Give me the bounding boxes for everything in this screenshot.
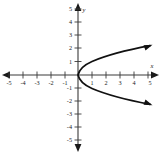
x-tick-label-pos3: 3 — [118, 79, 121, 86]
x-tick-label-pos5: 5 — [148, 79, 151, 86]
y-axis-down-arrow-icon — [75, 144, 82, 152]
y-tick-label-pos3: 3 — [69, 31, 72, 38]
y-tick-label-neg3: -3 — [67, 110, 72, 117]
x-axis-group — [2, 72, 159, 79]
x-tick-label-pos4: 4 — [132, 79, 135, 86]
y-tick-label-neg4: -4 — [67, 123, 72, 130]
x-tick-label-neg5: -5 — [6, 79, 11, 86]
y-tick-labels: 5 4 3 2 1 -1 -2 -3 -4 -5 — [67, 5, 72, 143]
y-tick-label-pos5: 5 — [69, 5, 72, 12]
y-axis-label: y — [82, 6, 86, 13]
x-axis-right-arrow-icon — [151, 72, 159, 79]
y-tick-label-neg5: -5 — [67, 136, 72, 143]
x-tick-labels: -5 -4 -3 -2 -1 1 2 3 4 5 — [6, 79, 151, 86]
coordinate-plane-figure: -5 -4 -3 -2 -1 1 2 3 4 5 5 4 — [0, 0, 161, 155]
y-axis-up-arrow-icon — [75, 3, 82, 11]
y-tick-label-pos2: 2 — [69, 44, 72, 51]
y-tick-label-pos1: 1 — [69, 58, 72, 65]
x-tick-label-neg2: -2 — [48, 79, 53, 86]
x-tick-label-pos1: 1 — [90, 79, 93, 86]
x-tick-label-pos2: 2 — [104, 79, 107, 86]
y-tick-label-neg1: -1 — [67, 84, 72, 91]
y-tick-label-neg2: -2 — [67, 97, 72, 104]
parabola-lower-arrow-icon — [144, 100, 153, 106]
graph-canvas: -5 -4 -3 -2 -1 1 2 3 4 5 5 4 — [0, 0, 161, 155]
x-tick-label-neg3: -3 — [34, 79, 39, 86]
x-axis-label: x — [150, 62, 154, 69]
y-tick-label-pos4: 4 — [69, 18, 72, 25]
x-tick-label-neg4: -4 — [20, 79, 25, 86]
parabola-upper-arrow-icon — [144, 45, 153, 51]
